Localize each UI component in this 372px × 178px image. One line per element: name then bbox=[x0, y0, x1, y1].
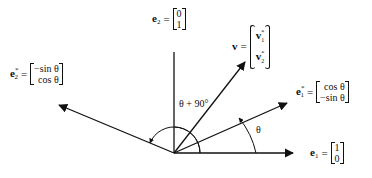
e1-star-vector-arrow bbox=[174, 103, 287, 153]
e1-star-matrix: cos θ −sin θ bbox=[316, 81, 349, 103]
e2-label: e2 = 0 1 bbox=[152, 8, 186, 30]
e2-matrix: 0 1 bbox=[173, 8, 186, 30]
e2-symbol: e2 bbox=[152, 13, 160, 26]
v-symbol: v bbox=[232, 41, 238, 52]
e1-symbol: e1 bbox=[310, 147, 318, 160]
e2-star-label: e*2 = −sin θ cos θ bbox=[10, 63, 63, 85]
e2-star-vector-arrow bbox=[59, 105, 174, 153]
e1-matrix: 1 0 bbox=[331, 142, 344, 164]
e1-star-label: e*1 = cos θ −sin θ bbox=[296, 81, 349, 103]
theta-plus-90-arc bbox=[150, 127, 200, 153]
e2-star-matrix: −sin θ cos θ bbox=[30, 63, 63, 85]
e2-star-symbol: e*2 bbox=[10, 67, 18, 81]
v-components: v*1 v*2 bbox=[250, 25, 271, 69]
e1-star-symbol: e*1 bbox=[296, 85, 304, 99]
theta-plus-90-label: θ + 90° bbox=[179, 98, 208, 109]
v-label: v = v*1 v*2 bbox=[232, 25, 270, 69]
e1-label: e1 = 1 0 bbox=[310, 142, 344, 164]
theta-label: θ bbox=[256, 124, 261, 135]
